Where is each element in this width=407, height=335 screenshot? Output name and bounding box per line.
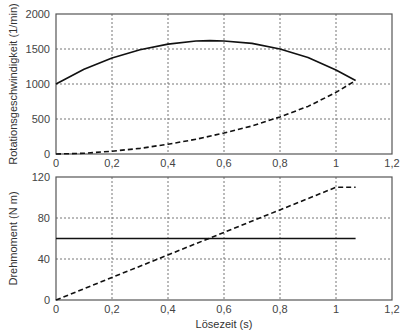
y-tick-label: 1000 <box>26 78 50 90</box>
torque-plot: 00,20,40,60,811,204080120Drehmoment (N m… <box>7 171 400 330</box>
series-dashed-line <box>56 81 356 155</box>
x-tick-label: 0 <box>53 157 59 169</box>
x-tick-label: 1,2 <box>384 303 399 315</box>
x-tick-label: 0,4 <box>160 303 175 315</box>
x-tick-label: 0,2 <box>104 303 119 315</box>
y-tick-label: 120 <box>32 171 50 183</box>
y-axis-label: Rotationsgeschwindigkeit (1/min) <box>7 3 19 164</box>
x-tick-label: 1 <box>333 157 339 169</box>
y-tick-label: 0 <box>44 294 50 306</box>
x-tick-label: 1,2 <box>384 157 399 169</box>
x-tick-label: 1 <box>333 303 339 315</box>
x-tick-label: 0,6 <box>216 157 231 169</box>
x-tick-label: 0,6 <box>216 303 231 315</box>
x-tick-label: 0,2 <box>104 157 119 169</box>
series-solid-line <box>56 41 356 84</box>
x-tick-label: 0 <box>53 303 59 315</box>
x-axis-label: Lösezeit (s) <box>196 318 253 330</box>
y-tick-label: 2000 <box>26 8 50 20</box>
y-tick-label: 40 <box>38 253 50 265</box>
x-tick-label: 0,8 <box>272 157 287 169</box>
x-tick-label: 0,8 <box>272 303 287 315</box>
y-axis-label: Drehmoment (N m) <box>7 191 19 285</box>
series-dashed-line <box>56 187 356 300</box>
x-tick-label: 0,4 <box>160 157 175 169</box>
rotation-speed-plot: 00,20,40,60,811,20500100015002000Rotatio… <box>7 3 400 169</box>
y-tick-label: 80 <box>38 212 50 224</box>
chart-figure: 00,20,40,60,811,20500100015002000Rotatio… <box>0 0 407 335</box>
y-tick-label: 1500 <box>26 43 50 55</box>
y-tick-label: 0 <box>44 148 50 160</box>
y-tick-label: 500 <box>32 113 50 125</box>
